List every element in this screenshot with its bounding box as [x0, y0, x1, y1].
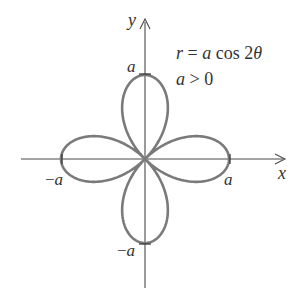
tick-label-x-pos: a	[224, 170, 233, 189]
y-axis-label: y	[126, 10, 136, 30]
tick-label-x-neg: −a	[45, 170, 63, 189]
tick-label-y-pos: a	[127, 57, 136, 76]
tick-label-y-neg: −a	[117, 241, 135, 260]
x-axis-label: x	[277, 163, 286, 183]
condition-label: a > 0	[176, 69, 213, 89]
equation-label: r = a cos 2θ	[176, 43, 262, 63]
polar-rose-figure: y x a −a a −a r = a cos 2θ a > 0	[0, 0, 299, 302]
